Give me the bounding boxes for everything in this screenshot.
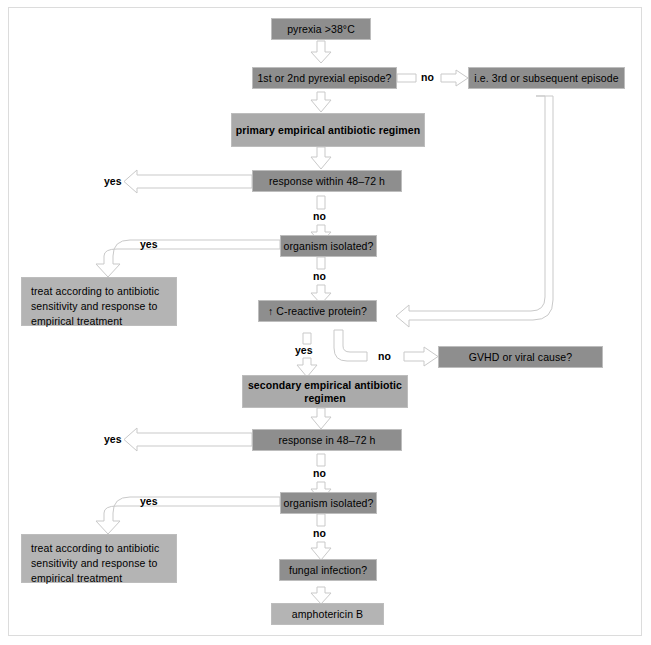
node-treat-2: treat according to antibiotic sensitivit… — [21, 534, 177, 583]
node-third-episode-label: i.e. 3rd or subsequent episode — [474, 72, 618, 85]
edge-label-crp-yes: yes — [295, 344, 313, 356]
node-amphotericin-label: amphotericin B — [292, 608, 363, 621]
node-amphotericin: amphotericin B — [271, 603, 384, 625]
edge-label-response1-yes: yes — [104, 175, 122, 187]
node-response-2: response in 48–72 h — [252, 429, 402, 451]
node-crp-label: ↑ C-reactive protein? — [268, 305, 367, 318]
node-third-episode: i.e. 3rd or subsequent episode — [468, 67, 625, 89]
node-response-1: response within 48–72 h — [252, 170, 402, 192]
node-primary-regimen-label: primary empirical antibiotic regimen — [236, 124, 421, 137]
edge-label-response2-yes: yes — [104, 433, 122, 445]
node-organism-isolated-2-label: organism isolated? — [284, 497, 374, 510]
node-secondary-regimen-label: secondary empirical antibiotic regimen — [243, 379, 407, 405]
node-crp: ↑ C-reactive protein? — [258, 300, 377, 322]
edge-label-organism2-no: no — [313, 527, 326, 539]
node-episode-question: 1st or 2nd pyrexial episode? — [252, 67, 397, 89]
node-fungal-infection-label: fungal infection? — [289, 564, 367, 577]
node-episode-question-label: 1st or 2nd pyrexial episode? — [257, 72, 391, 85]
node-treat-1: treat according to antibiotic sensitivit… — [21, 277, 177, 326]
edge-label-organism1-no: no — [313, 270, 326, 282]
node-secondary-regimen: secondary empirical antibiotic regimen — [242, 375, 408, 408]
edge-label-organism1-yes: yes — [140, 238, 158, 250]
node-organism-isolated-1: organism isolated? — [280, 235, 377, 257]
edge-label-organism2-yes: yes — [140, 495, 158, 507]
node-gvhd: GVHD or viral cause? — [438, 346, 603, 368]
node-response-2-label: response in 48–72 h — [278, 434, 375, 447]
flowchart-page: pyrexia >38°C 1st or 2nd pyrexial episod… — [0, 0, 651, 645]
node-pyrexia-label: pyrexia >38°C — [287, 23, 355, 36]
node-fungal-infection: fungal infection? — [279, 559, 377, 581]
node-treat-2-label: treat according to antibiotic sensitivit… — [31, 541, 168, 586]
node-organism-isolated-1-label: organism isolated? — [284, 240, 374, 253]
edge-label-response1-no: no — [313, 210, 326, 222]
node-response-1-label: response within 48–72 h — [269, 175, 385, 188]
edge-label-response2-no: no — [313, 467, 326, 479]
edge-label-crp-no: no — [378, 350, 391, 362]
node-pyrexia: pyrexia >38°C — [271, 18, 371, 40]
edge-label-episode-no: no — [421, 71, 434, 83]
node-organism-isolated-2: organism isolated? — [280, 492, 377, 514]
node-treat-1-label: treat according to antibiotic sensitivit… — [31, 284, 168, 329]
node-gvhd-label: GVHD or viral cause? — [469, 351, 573, 364]
node-primary-regimen: primary empirical antibiotic regimen — [231, 113, 425, 147]
